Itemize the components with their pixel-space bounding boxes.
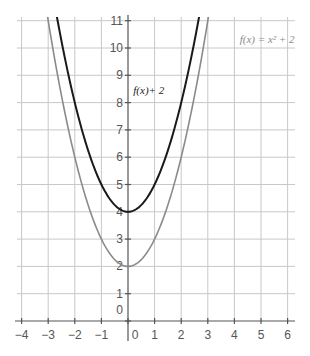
y-tick-label: 7 xyxy=(116,123,123,137)
x-tick-label: −1 xyxy=(95,328,109,342)
y-tick-label: 6 xyxy=(116,150,123,164)
tick-labels: −4−3−2−1012345601234567891011 xyxy=(15,14,292,342)
x-tick-label: 0 xyxy=(132,328,139,342)
y-tick-label: 11 xyxy=(111,14,124,28)
y-tick-label: 3 xyxy=(116,232,123,246)
y-tick-label: 8 xyxy=(116,96,123,110)
label-f: f(x) = x² + 2 xyxy=(240,33,295,46)
curve-labels: f(x) = x² + 2f(x)+ 2 xyxy=(133,33,295,98)
y-tick-label: 0 xyxy=(116,303,123,317)
x-tick-label: 1 xyxy=(151,328,158,342)
y-tick-label: 5 xyxy=(116,178,123,192)
grid-lines xyxy=(17,17,295,321)
function-graph: −4−3−2−1012345601234567891011 f(x) = x² … xyxy=(0,0,310,356)
x-tick-label: 4 xyxy=(231,328,238,342)
y-tick-label: 9 xyxy=(116,68,123,82)
y-tick-label: 10 xyxy=(110,41,124,55)
x-tick-label: −3 xyxy=(41,328,55,342)
x-tick-label: 2 xyxy=(178,328,185,342)
x-tick-label: 5 xyxy=(258,328,265,342)
x-tick-label: 3 xyxy=(204,328,211,342)
x-tick-label: 6 xyxy=(284,328,291,342)
x-tick-label: −2 xyxy=(68,328,82,342)
x-tick-label: −4 xyxy=(15,328,29,342)
label-f-plus-2: f(x)+ 2 xyxy=(133,84,164,97)
y-tick-label: 1 xyxy=(116,287,123,301)
